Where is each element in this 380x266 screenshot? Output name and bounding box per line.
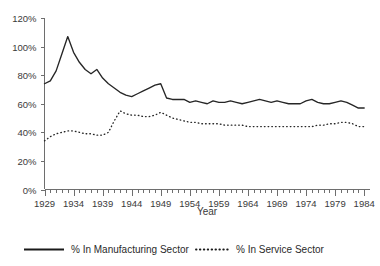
- y-axis: 0%20%40%60%80%100%120%: [12, 13, 44, 196]
- line-chart: 0%20%40%60%80%100%120% 19291934193919441…: [0, 0, 380, 266]
- y-tick-label: 100%: [12, 42, 37, 53]
- y-tick-label: 80%: [17, 70, 37, 81]
- x-tick-label: 1969: [266, 198, 287, 209]
- x-tick-label: 1929: [34, 198, 55, 209]
- x-tick-label: 1974: [295, 198, 316, 209]
- x-axis-title: Year: [197, 206, 218, 217]
- y-tick-label: 20%: [17, 156, 37, 167]
- y-tick-group: 0%20%40%60%80%100%120%: [12, 13, 44, 196]
- chart-container: 0%20%40%60%80%100%120% 19291934193919441…: [0, 0, 380, 266]
- series-group: [45, 37, 365, 141]
- series-line-service: [45, 111, 365, 141]
- x-tick-label: 1934: [63, 198, 84, 209]
- legend-label-service: % In Service Sector: [236, 244, 324, 255]
- x-tick-label: 1949: [150, 198, 171, 209]
- x-tick-label: 1964: [237, 198, 258, 209]
- x-tick-group: [46, 190, 365, 196]
- legend: % In Manufacturing Sector % In Service S…: [24, 244, 324, 255]
- x-tick-label: 1984: [354, 198, 375, 209]
- y-tick-label: 0%: [23, 185, 37, 196]
- x-tick-label: 1944: [121, 198, 142, 209]
- y-tick-label: 40%: [17, 127, 37, 138]
- series-line-manufacturing: [45, 37, 365, 108]
- y-tick-label: 60%: [17, 99, 37, 110]
- x-tick-label: 1939: [92, 198, 113, 209]
- x-tick-label: 1979: [325, 198, 346, 209]
- y-tick-label: 120%: [12, 13, 37, 24]
- legend-label-manufacturing: % In Manufacturing Sector: [71, 244, 190, 255]
